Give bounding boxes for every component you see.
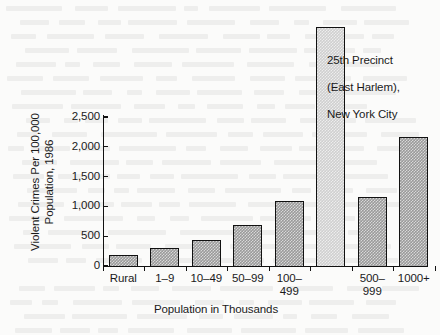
x-tick-mark-0	[103, 266, 104, 271]
y-tick-label-1500: 1,500	[52, 170, 100, 182]
bar-500–-999	[358, 197, 387, 267]
x-axis-title: Population in Thousands	[0, 303, 432, 315]
bar-50–99	[233, 225, 262, 266]
annotation-line1: 25th Precinct	[327, 54, 431, 68]
annotation-line2: (East Harlem),	[327, 81, 431, 95]
y-tick-500	[103, 236, 108, 237]
y-axis-title-line1: Violent Crimes Per 100,000	[28, 92, 42, 272]
y-tick-2000	[103, 146, 108, 147]
y-tick-label-500: 500	[52, 229, 100, 241]
bar-1000+	[399, 137, 428, 267]
x-tick-label-line1: 1000+	[380, 272, 440, 285]
x-tick-label-line1: 100–	[255, 272, 323, 285]
x-tick-mark-6	[352, 266, 353, 271]
bar-Rural	[109, 255, 138, 267]
y-axis-line	[103, 115, 105, 267]
x-tick-mark-7	[393, 266, 394, 271]
y-tick-label-1000: 1,000	[52, 199, 100, 211]
bar-100–-499	[275, 201, 304, 267]
y-tick-label-0: 0	[52, 259, 100, 271]
y-tick-1000	[103, 206, 108, 207]
y-tick-1500	[103, 176, 108, 177]
x-tick-label-7: 1000+	[380, 272, 440, 285]
highlight-annotation: 25th Precinct (East Harlem), New York Ci…	[327, 40, 431, 135]
y-tick-2500	[103, 116, 108, 117]
x-tick-mark-8	[435, 266, 436, 271]
x-tick-label-5: 100–499	[255, 272, 323, 297]
y-tick-label-2500: 2,500	[52, 110, 100, 122]
bar-10–49	[192, 240, 221, 266]
x-tick-label-line2: 499	[255, 285, 323, 298]
y-tick-label-2000: 2,000	[52, 140, 100, 152]
x-tick-mark-4	[269, 266, 270, 271]
x-tick-mark-5	[310, 266, 311, 271]
bar-1–9	[150, 248, 179, 267]
x-tick-mark-1	[144, 266, 145, 271]
annotation-line3: New York City	[327, 108, 431, 122]
x-tick-label-line2: 999	[338, 285, 406, 298]
x-tick-mark-3	[227, 266, 228, 271]
x-tick-mark-2	[186, 266, 187, 271]
